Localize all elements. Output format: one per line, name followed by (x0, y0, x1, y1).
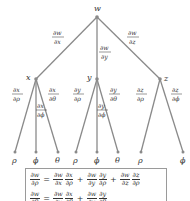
frac-dx-dtheta: ∂x ∂θ (48, 86, 59, 102)
frac-dy-drho: ∂y ∂ρ (73, 86, 84, 103)
leaf-z-rho (140, 151, 143, 154)
label-z: z (163, 74, 169, 83)
svg-text:∂θ: ∂θ (110, 95, 117, 102)
leaf-label-y-theta: θ (115, 156, 120, 165)
svg-text:∂w: ∂w (128, 29, 137, 36)
label-x: x (26, 73, 31, 82)
lhs-frac: ∂w∂ρ (30, 172, 40, 187)
frac-dw-dz: ∂w ∂z (127, 29, 139, 45)
leaf-y-theta (117, 151, 120, 154)
leaf-y-rho (75, 151, 78, 154)
formula-drho: ∂w∂ρ = ∂w∂x ∂x∂ρ + ∂w∂y ∂y∂ρ + ∂w∂z ∂z∂ρ (30, 172, 140, 187)
node-z (158, 77, 162, 81)
label-y: y (86, 73, 92, 82)
svg-text:∂z: ∂z (137, 86, 144, 93)
svg-text:∂ρ: ∂ρ (137, 95, 144, 103)
leaf-label-x-rho: ρ (11, 156, 17, 165)
leaf-x-theta (57, 151, 60, 154)
leaf-label-z-rho: ρ (137, 156, 143, 165)
frac-dy-dtheta: ∂y ∂θ (109, 86, 120, 102)
frac-dz-drho: ∂z ∂ρ (136, 86, 147, 103)
svg-text:∂z: ∂z (129, 38, 136, 45)
frac-dx-drho: ∂x ∂ρ (12, 86, 23, 103)
leaf-label-x-phi: ϕ (33, 156, 39, 165)
frac-dw-dy: ∂w ∂y (99, 44, 111, 61)
svg-text:∂ϕ: ∂ϕ (98, 111, 106, 119)
leaf-x-phi (35, 151, 38, 154)
frac-dz-dphi: ∂z ∂ϕ (171, 86, 182, 103)
svg-text:∂y: ∂y (74, 86, 81, 94)
svg-text:∂ρ: ∂ρ (13, 95, 20, 103)
node-x (34, 77, 38, 81)
leaf-y-phi (96, 151, 99, 154)
svg-text:∂ϕ: ∂ϕ (172, 95, 180, 103)
svg-text:∂z: ∂z (172, 86, 179, 93)
svg-text:∂x: ∂x (49, 86, 56, 93)
svg-text:∂x: ∂x (13, 86, 20, 93)
edge-z-rho (141, 79, 160, 152)
svg-text:∂ϕ: ∂ϕ (37, 111, 45, 119)
leaf-label-y-rho: ρ (72, 156, 78, 165)
svg-text:∂w: ∂w (53, 29, 62, 36)
svg-text:∂y: ∂y (110, 86, 117, 94)
edge-w-x (36, 17, 97, 79)
leaf-x-rho (14, 151, 17, 154)
svg-text:∂θ: ∂θ (49, 95, 56, 102)
svg-text:∂w: ∂w (100, 44, 109, 51)
frac-dw-dx: ∂w ∂x (52, 29, 64, 45)
leaf-label-y-phi: ϕ (94, 156, 100, 165)
leaf-label-z-phi: ϕ (180, 156, 186, 165)
leaf-z-phi (182, 151, 185, 154)
label-w: w (94, 4, 101, 13)
svg-text:∂x: ∂x (37, 102, 44, 109)
svg-text:∂y: ∂y (101, 53, 108, 61)
node-w (95, 15, 99, 19)
svg-text:∂ρ: ∂ρ (74, 95, 81, 103)
svg-text:∂y: ∂y (98, 102, 105, 110)
svg-text:∂x: ∂x (54, 38, 61, 45)
node-y (95, 77, 99, 81)
formula-box: ∂w∂ρ = ∂w∂x ∂x∂ρ + ∂w∂y ∂y∂ρ + ∂w∂z ∂z∂ρ… (25, 168, 167, 201)
formula-dtheta: ∂w∂θ = ∂w∂x ∂x∂θ + ∂w∂y ∂y∂θ (30, 191, 107, 201)
leaf-label-x-theta: θ (55, 156, 60, 165)
